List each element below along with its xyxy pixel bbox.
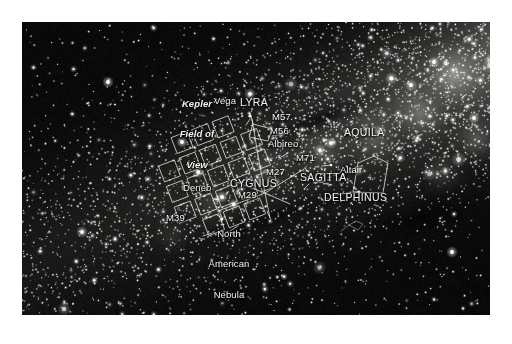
star-vega [248, 114, 251, 117]
m27-pointer [305, 184, 309, 188]
m71-pointer [319, 181, 325, 182]
delphinus-asterism [341, 221, 363, 231]
star-markers [221, 114, 361, 220]
constellation-overlay [22, 22, 490, 315]
lyra-asterism [249, 113, 272, 141]
sky-image: Kepler Field of View North American Nebu… [22, 22, 490, 315]
m56-pointer [281, 153, 288, 157]
kepler-ccd-module-grid [151, 108, 287, 244]
star-deneb [221, 218, 224, 221]
m57-pointer [272, 134, 284, 136]
star-albireo [330, 164, 332, 166]
star-altair [358, 191, 361, 194]
vega-pointer [246, 119, 250, 125]
albireo-pointer [322, 165, 331, 166]
aquila-asterism [331, 156, 388, 196]
sagitta-asterism [307, 173, 332, 185]
